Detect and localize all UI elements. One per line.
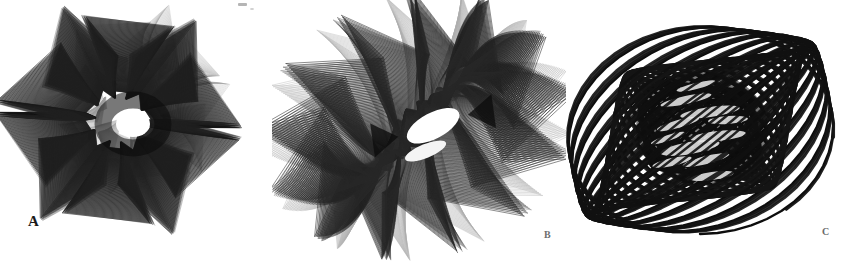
figure-label-a: A [28,214,39,229]
figure-label-b: B [544,230,551,240]
figure-panel-a [0,0,278,261]
harmonograph-curve-a [0,0,278,261]
scan-speck [238,3,247,6]
scan-speck [250,8,254,10]
harmonograph-curve-b [272,0,566,261]
harmonograph-curve-c [560,0,854,261]
figure-plate: A B C [0,0,854,261]
figure-panel-b [272,0,566,261]
figure-label-c: C [822,227,829,237]
figure-panel-c [560,0,854,261]
